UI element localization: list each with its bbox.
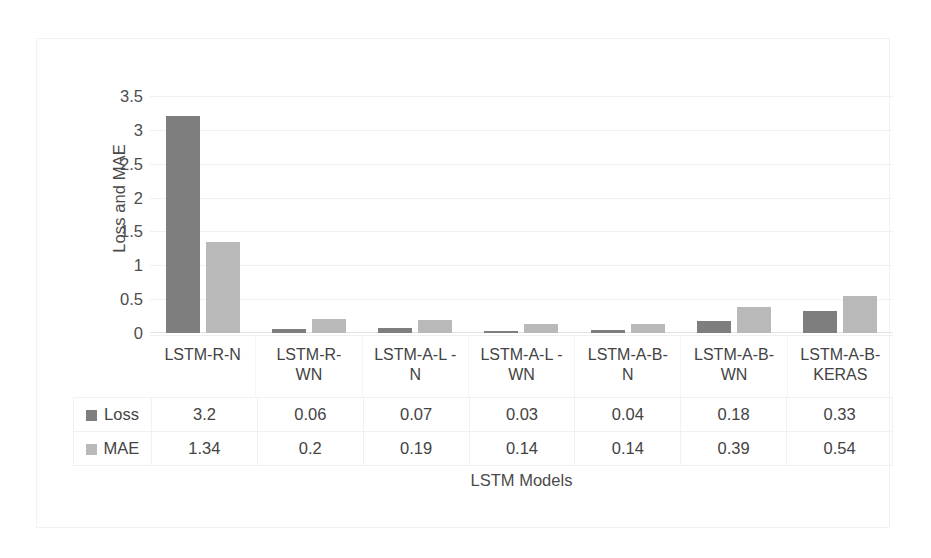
category-label-line: KERAS	[813, 365, 867, 385]
bar-mae[interactable]	[843, 296, 877, 333]
y-axis-tick-label: 0.5	[120, 290, 143, 309]
y-axis-tick-label: 2	[134, 188, 143, 207]
x-axis-title: LSTM Models	[150, 471, 893, 490]
category-label-line: LSTM-A-L -	[480, 345, 562, 365]
bar-loss[interactable]	[484, 331, 518, 333]
category-label-line: LSTM-R-	[276, 345, 341, 365]
bar-mae[interactable]	[524, 324, 558, 333]
category-label-line: LSTM-A-B-	[800, 345, 880, 365]
category-label-line: N	[622, 365, 634, 385]
bar-group	[256, 96, 362, 333]
chart-data-table: Loss3.20.060.070.030.040.180.33MAE1.340.…	[73, 397, 893, 466]
category-label-line: WN	[296, 365, 323, 385]
bar-group	[362, 96, 468, 333]
bar-group	[468, 96, 574, 333]
x-axis-category-label: LSTM-A-B-KERAS	[788, 336, 893, 397]
legend-label: MAE	[104, 439, 140, 457]
legend-entry: Loss	[74, 398, 152, 432]
x-axis-category-label: LSTM-A-L -N	[363, 336, 469, 397]
table-cell: 0.18	[681, 398, 787, 432]
table-cell: 0.04	[575, 398, 681, 432]
bar-loss[interactable]	[272, 329, 306, 333]
table-cell: 0.54	[787, 432, 893, 466]
category-label-line: LSTM-A-L -	[374, 345, 456, 365]
bar-loss[interactable]	[378, 328, 412, 333]
bar-mae[interactable]	[206, 242, 240, 333]
bar-group	[787, 96, 893, 333]
y-axis-tick-label: 1.5	[120, 222, 143, 241]
bar-loss[interactable]	[803, 311, 837, 333]
bar-group	[150, 96, 256, 333]
chart-data-table-body: Loss3.20.060.070.030.040.180.33MAE1.340.…	[74, 398, 893, 466]
category-label-line: N	[409, 365, 421, 385]
legend-label: Loss	[104, 405, 139, 423]
x-axis-category-label: LSTM-A-B-WN	[681, 336, 787, 397]
x-axis-category-labels: LSTM-R-NLSTM-R-WNLSTM-A-L -NLSTM-A-L -WN…	[150, 335, 893, 397]
loss-swatch-icon	[86, 410, 97, 421]
category-label-line: LSTM-A-B-	[694, 345, 774, 365]
category-label-line: LSTM-A-B-	[588, 345, 668, 365]
table-cell: 1.34	[152, 432, 258, 466]
table-cell: 0.14	[469, 432, 575, 466]
y-axis-tick-label: 0	[134, 324, 143, 343]
x-axis-category-label: LSTM-A-B-N	[575, 336, 681, 397]
table-cell: 0.19	[363, 432, 469, 466]
y-axis-tick-label: 3.5	[120, 87, 143, 106]
mae-swatch-icon	[86, 444, 97, 455]
table-row: MAE1.340.20.190.140.140.390.54	[74, 432, 893, 466]
bar-mae[interactable]	[418, 320, 452, 333]
y-axis-tick-labels: 3.532.521.510.50	[85, 96, 143, 333]
bar-group	[681, 96, 787, 333]
bar-series-layer	[150, 96, 893, 333]
bar-mae[interactable]	[737, 307, 771, 333]
table-cell: 3.2	[152, 398, 258, 432]
table-cell: 0.2	[257, 432, 363, 466]
y-axis-tick-label: 2.5	[120, 154, 143, 173]
table-cell: 0.06	[257, 398, 363, 432]
y-axis-tick-label: 1	[134, 256, 143, 275]
y-axis-tick-label: 3	[134, 120, 143, 139]
table-row: Loss3.20.060.070.030.040.180.33	[74, 398, 893, 432]
table-cell: 0.33	[787, 398, 893, 432]
bar-loss[interactable]	[591, 330, 625, 333]
bar-mae[interactable]	[631, 324, 665, 333]
table-cell: 0.07	[363, 398, 469, 432]
bar-loss[interactable]	[166, 116, 200, 333]
bar-mae[interactable]	[312, 319, 346, 333]
table-cell: 0.39	[681, 432, 787, 466]
x-axis-category-label: LSTM-R-WN	[256, 336, 362, 397]
category-label-line: WN	[508, 365, 535, 385]
bar-loss[interactable]	[697, 321, 731, 333]
legend-entry: MAE	[74, 432, 152, 466]
category-label-line: LSTM-R-N	[164, 345, 240, 365]
category-label-line: WN	[721, 365, 748, 385]
x-axis-category-label: LSTM-A-L -WN	[469, 336, 575, 397]
x-axis-category-label: LSTM-R-N	[150, 336, 256, 397]
table-cell: 0.03	[469, 398, 575, 432]
bar-group	[575, 96, 681, 333]
chart-container: Loss and MAE 3.532.521.510.50 LSTM-R-NLS…	[36, 38, 890, 528]
table-cell: 0.14	[575, 432, 681, 466]
